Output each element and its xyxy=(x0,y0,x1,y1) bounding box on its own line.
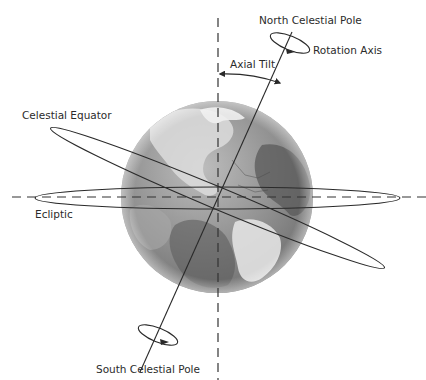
ecliptic-label: Ecliptic xyxy=(35,208,73,220)
celestial-equator-label: Celestial Equator xyxy=(22,109,112,121)
axial-tilt-diagram: North Celestial Pole Rotation Axis Axial… xyxy=(0,0,426,380)
south-celestial-pole-label: South Celestial Pole xyxy=(96,363,200,375)
rotation-axis-label: Rotation Axis xyxy=(313,44,382,56)
axial-tilt-label: Axial Tilt xyxy=(230,58,275,70)
south-rotation-arrow-icon xyxy=(136,321,180,350)
north-rotation-arrow-icon xyxy=(268,29,312,58)
north-celestial-pole-label: North Celestial Pole xyxy=(259,14,362,26)
